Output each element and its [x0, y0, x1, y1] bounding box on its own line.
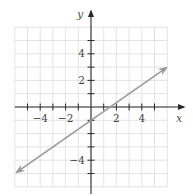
x-axis-label: x: [176, 112, 183, 125]
x-tick-label-2: 2: [113, 112, 120, 124]
x-tick-label-4: 4: [138, 112, 145, 124]
y-axis-label: y: [76, 8, 84, 21]
x-tick-label-neg4: −4: [32, 112, 48, 124]
y-tick-label-4: 4: [78, 47, 85, 59]
coordinate-plane: −4 −2 2 4 4 2 −4 x y: [0, 0, 193, 196]
x-tick-label-neg2: −2: [58, 112, 73, 124]
y-tick-label-2: 2: [78, 74, 85, 86]
y-tick-label-neg4: −4: [70, 154, 86, 166]
